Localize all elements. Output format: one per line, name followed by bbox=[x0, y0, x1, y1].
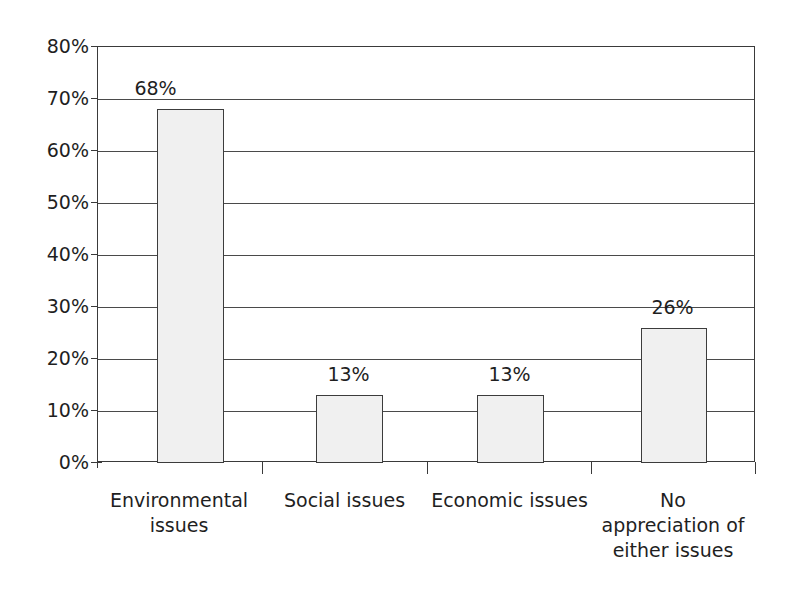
x-category-line: Economic issues bbox=[427, 488, 592, 513]
y-tick-label: 80% bbox=[11, 37, 89, 56]
x-category-label-economic-issues: Economic issues bbox=[427, 488, 592, 513]
x-tick-mark bbox=[262, 462, 263, 474]
y-tick-label: 60% bbox=[11, 141, 89, 160]
x-tick-mark bbox=[427, 462, 428, 474]
bar-value-label: 13% bbox=[476, 365, 543, 384]
bar-environmental-issues bbox=[157, 109, 224, 463]
bar-social-issues bbox=[316, 395, 383, 463]
y-tick-label: 10% bbox=[11, 401, 89, 420]
y-tick-label: 50% bbox=[11, 193, 89, 212]
bar-value-label: 68% bbox=[122, 79, 189, 98]
x-tick-mark bbox=[755, 462, 756, 474]
bar-economic-issues bbox=[477, 395, 544, 463]
y-tick-label: 20% bbox=[11, 349, 89, 368]
x-category-line: Environmental bbox=[93, 488, 265, 513]
x-category-line: either issues bbox=[591, 538, 755, 563]
y-tick-label: 0% bbox=[11, 453, 89, 472]
x-tick-mark bbox=[97, 456, 98, 468]
bar-chart: 80% 70% 60% 50% 40% 30% 20% 10% 0% bbox=[0, 0, 789, 590]
bar-no-appreciation bbox=[641, 328, 707, 463]
bar-value-label: 26% bbox=[639, 298, 706, 317]
y-tick-label: 40% bbox=[11, 245, 89, 264]
gridline-70 bbox=[98, 99, 754, 100]
x-category-line: Social issues bbox=[262, 488, 427, 513]
y-tick-label: 70% bbox=[11, 89, 89, 108]
x-category-line: No bbox=[591, 488, 755, 513]
x-tick-mark bbox=[591, 462, 592, 474]
x-category-label-environmental-issues: Environmental issues bbox=[93, 488, 265, 538]
x-category-label-social-issues: Social issues bbox=[262, 488, 427, 513]
x-category-line: issues bbox=[93, 513, 265, 538]
y-tick-label: 30% bbox=[11, 297, 89, 316]
x-category-line: appreciation of bbox=[591, 513, 755, 538]
bar-value-label: 13% bbox=[315, 365, 382, 384]
x-category-label-no-appreciation: No appreciation of either issues bbox=[591, 488, 755, 563]
plot-area bbox=[97, 46, 755, 462]
